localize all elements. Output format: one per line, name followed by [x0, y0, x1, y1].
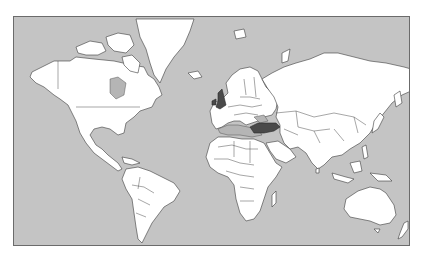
ireland — [212, 99, 216, 105]
north-america — [30, 57, 162, 171]
world-map-svg — [14, 17, 410, 246]
turkey — [250, 123, 280, 133]
madagascar — [272, 191, 276, 207]
iceland — [188, 71, 202, 79]
caribbean — [122, 157, 140, 165]
new-zealand — [398, 221, 408, 239]
indonesia — [332, 173, 354, 183]
south-america — [122, 167, 180, 243]
united-kingdom — [216, 89, 226, 109]
sri-lanka — [316, 168, 319, 173]
svalbard — [234, 29, 246, 39]
philippines — [362, 145, 368, 159]
borneo — [350, 161, 362, 173]
australia — [344, 187, 396, 225]
tasmania — [374, 229, 380, 233]
new-guinea — [370, 173, 392, 181]
arctic-russia-islands — [282, 49, 290, 63]
arctic-islands-2 — [106, 33, 134, 53]
world-map — [13, 16, 410, 246]
arctic-islands — [76, 41, 106, 55]
